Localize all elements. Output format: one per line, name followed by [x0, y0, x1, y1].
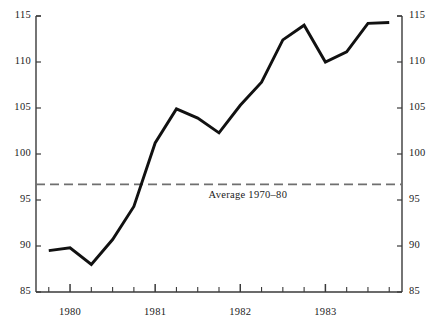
y-axis-label-left: 105: [0, 101, 31, 112]
x-axis-ticks: [49, 284, 389, 292]
data-series-line: [49, 22, 389, 264]
x-axis-label: 1980: [40, 306, 100, 317]
y-axis-label-right: 85: [409, 285, 420, 296]
chart-plot-area: [0, 0, 442, 332]
y-axis-label-right: 100: [409, 147, 426, 158]
y-axis-label-left: 90: [0, 239, 31, 250]
y-axis-label-right: 95: [409, 193, 420, 204]
axis-lines: [36, 16, 402, 292]
y-axis-label-right: 110: [409, 55, 425, 66]
y-axis-label-right: 90: [409, 239, 420, 250]
y-axis-label-right: 115: [409, 9, 425, 20]
x-axis-label: 1983: [295, 306, 355, 317]
y-axis-label-right: 105: [409, 101, 426, 112]
y-axis-label-left: 115: [0, 9, 31, 20]
y-axis-label-left: 100: [0, 147, 31, 158]
average-annotation: Average 1970–80: [209, 189, 288, 200]
y-axis-left-ticks: [36, 16, 41, 292]
y-axis-label-left: 85: [0, 285, 31, 296]
y-axis-label-left: 95: [0, 193, 31, 204]
x-axis-label: 1981: [125, 306, 185, 317]
y-axis-right-ticks: [397, 16, 402, 292]
x-axis-label: 1982: [210, 306, 270, 317]
y-axis-label-left: 110: [0, 55, 31, 66]
chart-container: 859095100105110115 859095100105110115 19…: [0, 0, 442, 332]
